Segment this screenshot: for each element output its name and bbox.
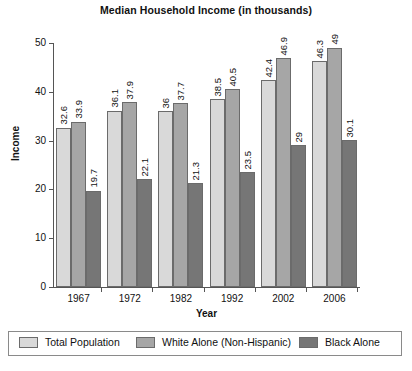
bar-value-label: 49: [329, 34, 339, 45]
bar[interactable]: [210, 99, 225, 287]
bar-value-label: 21.3: [191, 162, 201, 181]
bar-value-label: 46.3: [314, 40, 324, 59]
x-tick-label: 2002: [258, 294, 308, 304]
bar-value-label: 42.4: [263, 59, 273, 78]
bar[interactable]: [122, 102, 137, 287]
legend-label: Total Population: [45, 337, 120, 348]
bar-value-label: 46.9: [278, 37, 288, 56]
x-tick-label: 1982: [156, 294, 206, 304]
bar-value-label: 23.5: [242, 151, 252, 170]
bar[interactable]: [312, 61, 327, 287]
bar[interactable]: [107, 111, 122, 287]
legend-entry[interactable]: Black Alone: [299, 337, 380, 348]
legend-label: Black Alone: [325, 337, 380, 348]
y-tick-label: 20: [14, 184, 46, 194]
bar-value-label: 29: [293, 132, 303, 143]
x-tick-mark: [357, 288, 358, 292]
x-tick-mark: [152, 288, 153, 292]
x-tick-label: 1992: [207, 294, 257, 304]
bar[interactable]: [276, 58, 291, 287]
legend-entry[interactable]: Total Population: [19, 337, 120, 348]
y-tick-label: 50: [14, 38, 46, 48]
bar-value-label: 37.7: [176, 82, 186, 101]
bar[interactable]: [261, 80, 276, 287]
bar-group: 32.633.919.7: [56, 36, 101, 287]
bar-value-label: 38.5: [212, 78, 222, 97]
bar[interactable]: [240, 172, 255, 287]
bar[interactable]: [291, 145, 306, 287]
bar[interactable]: [71, 122, 86, 287]
bar[interactable]: [173, 103, 188, 287]
plot-area: 32.633.919.736.137.922.13637.721.338.540…: [53, 36, 362, 287]
bar[interactable]: [188, 183, 203, 287]
y-tick-label: 0: [14, 282, 46, 292]
x-axis-title: Year: [53, 308, 360, 319]
x-tick-mark: [101, 288, 102, 292]
bar[interactable]: [342, 140, 357, 287]
bar-value-label: 22.1: [140, 158, 150, 177]
bar[interactable]: [86, 191, 101, 287]
bar[interactable]: [137, 179, 152, 287]
bar-value-label: 40.5: [227, 68, 237, 87]
bar-value-label: 32.6: [59, 106, 69, 125]
legend-swatch: [299, 337, 318, 348]
x-tick-label: 1972: [105, 294, 155, 304]
bar-value-label: 33.9: [74, 100, 84, 119]
x-tick-mark: [204, 288, 205, 292]
x-tick-mark: [255, 288, 256, 292]
legend-swatch: [19, 337, 38, 348]
bar[interactable]: [56, 128, 71, 287]
legend-swatch: [136, 337, 155, 348]
chart-title: Median Household Income (in thousands): [0, 4, 412, 16]
legend-entry[interactable]: White Alone (Non-Hispanic): [136, 337, 291, 348]
y-tick-label: 40: [14, 87, 46, 97]
bar-value-label: 36.1: [110, 89, 120, 108]
bar-value-label: 19.7: [89, 169, 99, 188]
y-tick-label: 30: [14, 136, 46, 146]
legend-label: White Alone (Non-Hispanic): [162, 337, 291, 348]
y-tick-label: 10: [14, 233, 46, 243]
x-tick-mark: [306, 288, 307, 292]
x-axis-line: [53, 287, 360, 288]
bar-value-label: 36: [161, 98, 171, 109]
bar-group: 36.137.922.1: [107, 36, 152, 287]
bar-value-label: 30.1: [344, 119, 354, 138]
bar[interactable]: [327, 48, 342, 287]
x-tick-label: 1967: [54, 294, 104, 304]
bar-value-label: 37.9: [125, 81, 135, 100]
bar-group: 46.34930.1: [312, 36, 357, 287]
chart-container: Median Household Income (in thousands) I…: [0, 0, 412, 371]
bar[interactable]: [225, 89, 240, 287]
bar[interactable]: [158, 111, 173, 287]
chart-legend: Total PopulationWhite Alone (Non-Hispani…: [8, 331, 402, 356]
x-tick-label: 2006: [309, 294, 359, 304]
bar-group: 3637.721.3: [158, 36, 203, 287]
bar-group: 38.540.523.5: [210, 36, 255, 287]
bar-group: 42.446.929: [261, 36, 306, 287]
y-tick-mark: [49, 287, 53, 288]
